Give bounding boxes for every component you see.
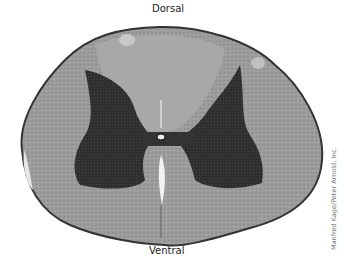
gray-commissure	[140, 132, 195, 146]
spinal-cord-image	[0, 0, 344, 261]
photo-credit: Manfred Kage/Peter Arnold, Inc.	[330, 147, 338, 250]
ventral-label: Ventral	[149, 245, 185, 256]
central-canal	[157, 134, 165, 140]
